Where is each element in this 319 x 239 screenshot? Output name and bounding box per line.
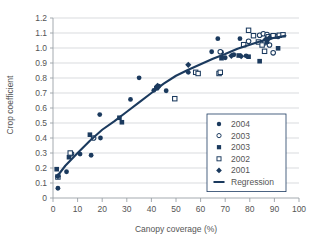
marker-filled-square bbox=[276, 46, 281, 51]
x-tick-label: 30 bbox=[122, 204, 132, 214]
y-tick-label: 0 bbox=[42, 193, 47, 203]
marker-filled-square bbox=[246, 54, 251, 59]
y-axis-tick-labels: 00.10.20.30.40.50.60.70.80.91.01.11.2 bbox=[35, 13, 47, 203]
marker-open-square bbox=[246, 28, 250, 32]
chart-canvas: 00.10.20.30.40.50.60.70.80.91.01.11.2 01… bbox=[0, 0, 319, 239]
marker-open-circle bbox=[217, 133, 221, 137]
marker-open-square bbox=[218, 70, 222, 74]
marker-filled-circle bbox=[217, 122, 221, 126]
y-tick-label: 0.1 bbox=[35, 178, 47, 188]
marker-filled-circle bbox=[64, 169, 69, 174]
y-tick-label: 0.4 bbox=[35, 133, 47, 143]
marker-open-square bbox=[260, 43, 264, 47]
y-tick-label: 0.2 bbox=[35, 163, 47, 173]
marker-open-circle bbox=[271, 51, 276, 56]
marker-filled-circle bbox=[89, 153, 94, 158]
x-tick-label: 50 bbox=[171, 204, 181, 214]
marker-filled-square bbox=[217, 145, 221, 149]
marker-filled-square bbox=[54, 167, 59, 172]
marker-open-square bbox=[68, 151, 72, 155]
y-tick-label: 0.6 bbox=[35, 103, 47, 113]
chart-legend: 20042003200320022001Regression bbox=[207, 114, 286, 192]
marker-open-circle bbox=[246, 39, 251, 44]
legend-item-label: 2003 bbox=[231, 131, 250, 141]
y-tick-label: 0.5 bbox=[35, 118, 47, 128]
y-tick-label: 0.9 bbox=[35, 58, 47, 68]
marker-filled-circle bbox=[137, 75, 142, 80]
x-tick-label: 10 bbox=[73, 204, 83, 214]
x-tick-label: 60 bbox=[196, 204, 206, 214]
marker-filled-square bbox=[257, 59, 262, 64]
legend-item-label: 2001 bbox=[231, 165, 250, 175]
crop-coefficient-scatter-chart: 00.10.20.30.40.50.60.70.80.91.01.11.2 01… bbox=[0, 0, 319, 239]
marker-filled-circle bbox=[215, 36, 220, 41]
x-axis-title: Canopy coverage (%) bbox=[135, 224, 217, 234]
y-tick-label: 1.0 bbox=[35, 43, 47, 53]
y-tick-label: 0.8 bbox=[35, 73, 47, 83]
marker-open-square bbox=[173, 97, 177, 101]
x-tick-label: 40 bbox=[147, 204, 157, 214]
marker-open-square bbox=[251, 34, 255, 38]
marker-filled-circle bbox=[98, 136, 103, 141]
marker-open-square bbox=[217, 157, 221, 161]
marker-open-square bbox=[196, 71, 200, 75]
legend-item-label: 2004 bbox=[231, 119, 250, 129]
marker-filled-square bbox=[120, 120, 125, 125]
legend-item-label: Regression bbox=[231, 177, 274, 187]
y-tick-label: 1.1 bbox=[35, 28, 47, 38]
x-tick-label: 80 bbox=[245, 204, 255, 214]
marker-filled-circle bbox=[128, 97, 133, 102]
marker-filled-diamond bbox=[185, 62, 191, 68]
marker-filled-square bbox=[88, 132, 93, 137]
legend-item-label: 2003 bbox=[231, 142, 250, 152]
marker-filled-circle bbox=[164, 88, 169, 93]
x-tick-label: 0 bbox=[51, 204, 56, 214]
x-tick-label: 20 bbox=[97, 204, 107, 214]
x-axis-tick-labels: 0102030405060708090100 bbox=[51, 204, 307, 214]
y-tick-label: 0.7 bbox=[35, 88, 47, 98]
y-axis-title: Crop coefficient bbox=[5, 75, 15, 135]
marker-filled-circle bbox=[209, 49, 214, 54]
marker-filled-circle bbox=[238, 36, 243, 41]
marker-filled-circle bbox=[97, 112, 102, 117]
x-tick-label: 90 bbox=[270, 204, 280, 214]
x-tick-label: 70 bbox=[220, 204, 230, 214]
legend-item-label: 2002 bbox=[231, 154, 250, 164]
y-tick-label: 0.3 bbox=[35, 148, 47, 158]
marker-filled-circle bbox=[56, 186, 61, 191]
x-tick-label: 100 bbox=[292, 204, 306, 214]
y-tick-label: 1.2 bbox=[35, 13, 47, 23]
marker-open-square bbox=[262, 49, 266, 53]
marker-open-circle bbox=[218, 49, 223, 54]
